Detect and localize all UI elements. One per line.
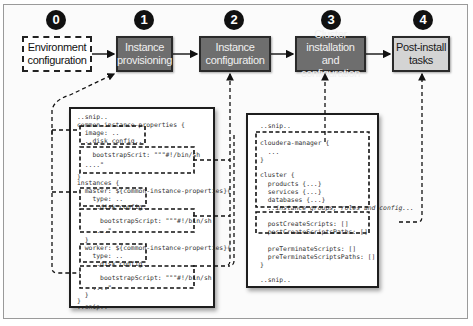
- code-line: ...: [260, 148, 279, 156]
- code-line: ..snip..: [260, 276, 291, 284]
- code-line: cloudera-manager {: [260, 139, 329, 147]
- stage-environment-configuration: Environmentconfiguration: [22, 36, 92, 72]
- code-line: }: [260, 261, 264, 269]
- code-line: services {...}: [260, 188, 322, 196]
- code-line: ..snip..: [77, 113, 108, 121]
- stage-instance-configuration: Instanceconfiguration: [199, 36, 271, 72]
- code-line: ..disk config..: [77, 260, 150, 268]
- code-line: ....": [77, 227, 112, 235]
- code-line: image: ..: [77, 129, 119, 137]
- code-line: preTerminateScripts: []: [260, 245, 356, 253]
- stage-cluster-installation: Cluster installationand configuration: [295, 36, 366, 72]
- code-line: bootstrapScrit: """#!/bin/sh: [77, 151, 200, 159]
- code-line: worker: ${common-instance-properties}{: [77, 244, 231, 252]
- stage-1-number-badge: 1: [134, 10, 154, 30]
- stage-0-number-badge: 0: [46, 10, 66, 30]
- code-line: instances {: [77, 179, 119, 187]
- code-line: databases {...}: [260, 196, 325, 204]
- code-line: preTerminateScriptsPaths: []: [260, 253, 375, 261]
- code-line: type: ..: [77, 252, 123, 260]
- stage-label-line2: tasks: [409, 54, 433, 66]
- stage-label-line1: Instance: [215, 41, 254, 53]
- stage-label-line1: Cluster installation: [306, 28, 354, 53]
- code-line: ..disk config..: [77, 203, 150, 211]
- code-line: ..instance groups, roles and config...: [260, 204, 414, 212]
- stage-post-install-tasks: Post-installtasks: [392, 36, 450, 72]
- stage-label-line2: provisioning: [117, 54, 172, 66]
- code-line: products {...}: [260, 180, 322, 188]
- code-line: ..snip..: [260, 122, 291, 130]
- code-line: ..disk config..: [77, 137, 142, 145]
- stage-label-line2: configuration: [205, 54, 264, 66]
- code-line: bootstrapScript: """#!/bin/sh: [77, 217, 212, 225]
- instance-config-code-block: ..snip.. common-instance-properties { im…: [69, 107, 215, 308]
- code-line: bootstrapScript: """#!/bin/sh: [77, 274, 212, 282]
- stage-3-number-badge: 3: [321, 10, 341, 30]
- cluster-config-code-block: ..snip.. cloudera-manager { ... } cluste…: [246, 113, 379, 288]
- code-line: common-instance-properties {: [77, 121, 185, 129]
- code-line: postCreateScripts: []: [260, 220, 349, 228]
- stage-label-line2: and configuration: [301, 54, 360, 79]
- stage-label-line2: configuration: [27, 54, 86, 66]
- stage-label-line1: Post-install: [396, 41, 446, 53]
- stage-label-line1: Environment: [28, 41, 86, 53]
- code-line: ..snip..: [77, 303, 108, 311]
- code-line: master: ${common-instance-properties}{: [77, 187, 231, 195]
- code-line: type: ..: [77, 195, 123, 203]
- stage-instance-provisioning: Instanceprovisioning: [116, 36, 173, 72]
- code-line: }: [77, 236, 89, 244]
- stage-label-line1: Instance: [125, 41, 164, 53]
- code-line: ....": [77, 161, 104, 169]
- code-line: cluster {: [260, 171, 295, 179]
- stage-4-number-badge: 4: [413, 10, 433, 30]
- stage-2-number-badge: 2: [224, 10, 244, 30]
- code-line: postCreateScriptsPaths: []: [260, 228, 368, 236]
- code-line: }: [260, 156, 264, 164]
